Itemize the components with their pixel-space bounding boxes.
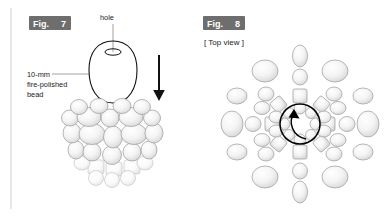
figure-7-tag: Fig. 7: [29, 16, 71, 30]
bead-pile-icon: [62, 99, 164, 188]
bead-label-line-1: 10-mm: [27, 70, 50, 79]
bead-label-line-3: bead: [27, 90, 43, 99]
hole-label: hole: [100, 13, 114, 22]
figure-7-group: Fig. 7 hole 10-mm fire-polished bead: [27, 13, 165, 188]
figure-7-tag-prefix: Fig.: [33, 19, 49, 29]
hole-callout: hole: [100, 13, 114, 52]
down-arrow-icon: [153, 55, 165, 101]
figure-8-tag-prefix: Fig.: [207, 19, 223, 29]
figure-8-tag-number: 8: [235, 19, 240, 29]
bead-size-callout: 10-mm fire-polished bead: [27, 70, 89, 99]
radial-bead-pattern-icon: [221, 45, 379, 203]
figure-8-tag: Fig. 8: [203, 16, 245, 30]
diagram-canvas: Fig. 7 hole 10-mm fire-polished bead: [0, 0, 388, 217]
figure-root: Fig. 7 hole 10-mm fire-polished bead: [0, 0, 388, 217]
bead-label-line-2: fire-polished: [27, 80, 67, 89]
figure-7-tag-number: 7: [61, 19, 66, 29]
top-view-label: [ Top view ]: [204, 38, 244, 47]
figure-8-group: Fig. 8 [ Top view ]: [203, 16, 379, 203]
